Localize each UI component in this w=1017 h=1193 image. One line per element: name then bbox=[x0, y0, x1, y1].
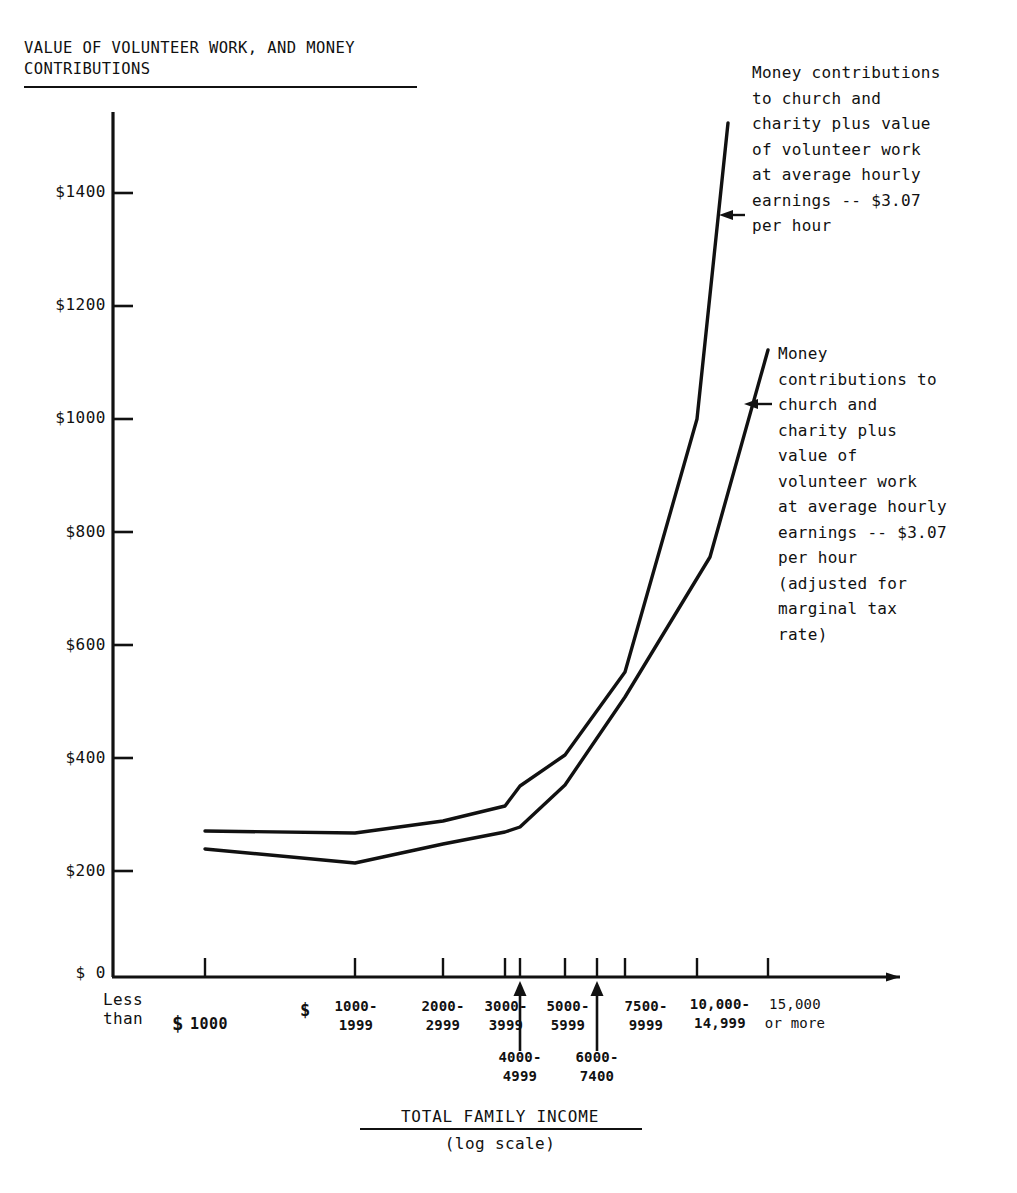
x-axis-title: TOTAL FAMILY INCOME bbox=[345, 1107, 655, 1126]
x-label-6000-7400: 6000- 7400 bbox=[559, 1048, 635, 1086]
y-axis-ticks bbox=[113, 193, 133, 871]
x-label-15000-or-more: 15,000 or more bbox=[752, 995, 838, 1033]
series-line-adjusted bbox=[205, 350, 768, 863]
x-axis-subtitle: (log scale) bbox=[345, 1134, 655, 1153]
x-label-5000-5999: 5000- 5999 bbox=[530, 997, 606, 1035]
annotation-adjusted: Money contributions to church and charit… bbox=[778, 341, 1017, 647]
x-label-4000-4999: 4000- 4999 bbox=[482, 1048, 558, 1086]
chart-root: VALUE OF VOLUNTEER WORK, AND MONEY CONTR… bbox=[0, 0, 1017, 1193]
x-label-7500-9999: 7500- 9999 bbox=[608, 997, 684, 1035]
annotation-leader-arrow-lower bbox=[744, 399, 772, 409]
x-label-less-than: Less than bbox=[103, 990, 199, 1028]
x-label-10000-14999: 10,000- 14,999 bbox=[676, 995, 764, 1033]
x-label-less-than-value: 1000 bbox=[190, 1015, 228, 1033]
x-axis-title-underline bbox=[360, 1128, 642, 1130]
dollar-sign-1000: $ bbox=[300, 1000, 310, 1020]
x-axis-ticks bbox=[205, 958, 768, 977]
annotation-unadjusted: Money contributions to church and charit… bbox=[752, 60, 1017, 239]
annotation-leader-arrow-upper bbox=[719, 210, 745, 220]
x-axis-arrowhead-icon bbox=[886, 973, 900, 982]
series-line-unadjusted bbox=[205, 123, 728, 833]
x-label-1000-1999: 1000- 1999 bbox=[318, 997, 394, 1035]
dollar-sign-less-than: $ bbox=[172, 1012, 183, 1034]
